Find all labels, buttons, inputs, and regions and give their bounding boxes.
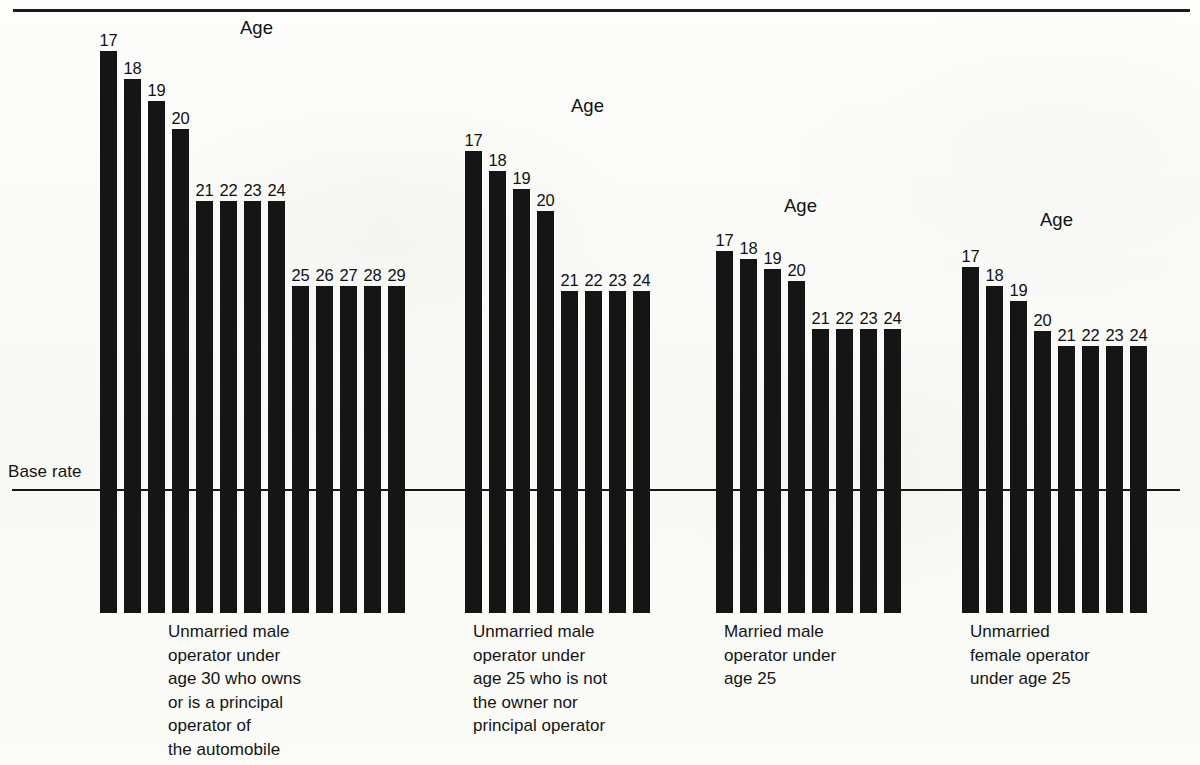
bar-group-plot: 1718192021222324 — [465, 0, 650, 613]
bar-age-18 — [740, 259, 757, 613]
bar-label-age-20: 20 — [167, 110, 194, 127]
bar-age-22 — [585, 291, 602, 613]
bar-age-17 — [962, 267, 979, 613]
bar-label-age-23: 23 — [1101, 327, 1128, 344]
bar-age-24 — [884, 329, 901, 613]
bar-age-19 — [1010, 301, 1027, 613]
bar-age-24 — [268, 201, 285, 613]
bar-label-age-24: 24 — [879, 310, 906, 327]
bar-age-19 — [764, 269, 781, 613]
bar-age-26 — [316, 286, 333, 613]
bar-age-25 — [292, 286, 309, 613]
bar-label-age-17: 17 — [957, 248, 984, 265]
bar-age-27 — [340, 286, 357, 613]
bar-age-18 — [124, 79, 141, 613]
bar-group-unmarried-male-nonowner-under-25: 1718192021222324AgeUnmarried male operat… — [465, 0, 650, 765]
bar-label-age-23: 23 — [855, 310, 882, 327]
bar-label-age-20: 20 — [1029, 312, 1056, 329]
bar-label-age-17: 17 — [460, 132, 487, 149]
bar-age-24 — [1130, 346, 1147, 613]
group-caption-unmarried-male-owner-under-30: Unmarried male operator under age 30 who… — [168, 620, 301, 761]
bar-age-17 — [465, 151, 482, 613]
bar-label-age-19: 19 — [508, 170, 535, 187]
bar-age-19 — [148, 101, 165, 613]
bar-label-age-24: 24 — [1125, 327, 1152, 344]
bar-group-plot: 1718192021222324 — [962, 0, 1147, 613]
bar-age-22 — [1082, 346, 1099, 613]
chart-page: Base rate 17181920212223242526272829AgeU… — [0, 0, 1200, 765]
bar-label-age-19: 19 — [759, 250, 786, 267]
bar-age-20 — [788, 281, 805, 613]
bar-age-21 — [812, 329, 829, 613]
age-axis-title: Age — [784, 196, 817, 216]
bar-age-20 — [537, 211, 554, 613]
bar-label-age-21: 21 — [556, 272, 583, 289]
bar-age-20 — [172, 129, 189, 613]
bar-label-age-20: 20 — [783, 262, 810, 279]
bar-label-age-28: 28 — [359, 267, 386, 284]
bar-label-age-29: 29 — [383, 267, 410, 284]
bar-group-plot: 1718192021222324 — [716, 0, 901, 613]
bar-age-28 — [364, 286, 381, 613]
group-caption-unmarried-female-under-25: Unmarried female operator under age 25 — [970, 620, 1090, 691]
bar-label-age-24: 24 — [263, 182, 290, 199]
bar-label-age-20: 20 — [532, 192, 559, 209]
age-axis-title: Age — [571, 96, 604, 116]
age-axis-title: Age — [240, 18, 273, 38]
bar-age-21 — [196, 201, 213, 613]
bar-label-age-18: 18 — [484, 152, 511, 169]
bar-age-22 — [836, 329, 853, 613]
bar-label-age-18: 18 — [119, 60, 146, 77]
age-axis-title: Age — [1040, 210, 1073, 230]
base-rate-label: Base rate — [8, 461, 98, 482]
bar-group-plot: 17181920212223242526272829 — [100, 0, 405, 613]
bar-group-unmarried-male-owner-under-30: 17181920212223242526272829AgeUnmarried m… — [100, 0, 405, 765]
bar-label-age-19: 19 — [143, 82, 170, 99]
bar-label-age-22: 22 — [831, 310, 858, 327]
bar-age-23 — [860, 329, 877, 613]
bar-age-20 — [1034, 331, 1051, 613]
bar-age-22 — [220, 201, 237, 613]
bar-label-age-18: 18 — [735, 240, 762, 257]
bar-group-married-male-under-25: 1718192021222324AgeMarried male operator… — [716, 0, 901, 765]
bar-label-age-17: 17 — [711, 232, 738, 249]
bar-label-age-23: 23 — [239, 182, 266, 199]
bar-age-29 — [388, 286, 405, 613]
bar-age-23 — [244, 201, 261, 613]
bar-label-age-21: 21 — [191, 182, 218, 199]
bar-label-age-22: 22 — [1077, 327, 1104, 344]
bar-age-21 — [561, 291, 578, 613]
bar-age-19 — [513, 189, 530, 613]
bar-age-18 — [986, 286, 1003, 613]
bar-age-17 — [716, 251, 733, 613]
bar-age-17 — [100, 51, 117, 613]
bar-label-age-26: 26 — [311, 267, 338, 284]
bar-label-age-22: 22 — [215, 182, 242, 199]
bar-group-unmarried-female-under-25: 1718192021222324AgeUnmarried female oper… — [962, 0, 1147, 765]
bar-label-age-22: 22 — [580, 272, 607, 289]
bar-label-age-19: 19 — [1005, 282, 1032, 299]
bar-label-age-27: 27 — [335, 267, 362, 284]
bar-label-age-25: 25 — [287, 267, 314, 284]
bar-label-age-24: 24 — [628, 272, 655, 289]
bar-label-age-18: 18 — [981, 267, 1008, 284]
bar-label-age-21: 21 — [1053, 327, 1080, 344]
bar-age-24 — [633, 291, 650, 613]
bar-age-23 — [609, 291, 626, 613]
group-caption-unmarried-male-nonowner-under-25: Unmarried male operator under age 25 who… — [473, 620, 607, 738]
group-caption-married-male-under-25: Married male operator under age 25 — [724, 620, 836, 691]
bar-label-age-17: 17 — [95, 32, 122, 49]
bar-age-18 — [489, 171, 506, 613]
bar-label-age-21: 21 — [807, 310, 834, 327]
bar-age-23 — [1106, 346, 1123, 613]
bar-label-age-23: 23 — [604, 272, 631, 289]
bar-age-21 — [1058, 346, 1075, 613]
